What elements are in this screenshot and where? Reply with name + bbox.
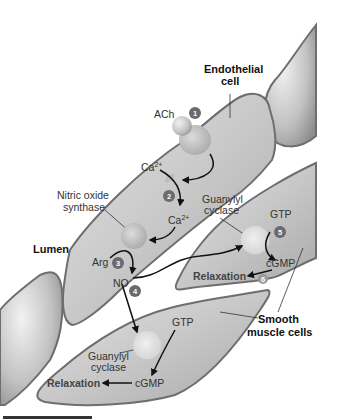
label-gc-upper-line2: cyclase bbox=[204, 204, 239, 216]
svg-text:1: 1 bbox=[193, 109, 197, 118]
nitric-oxide-pathway-diagram: Endothelial cell ACh Ca2+ Ca2+ Nitric ox… bbox=[0, 0, 337, 419]
step-badge-5: 5 bbox=[274, 226, 286, 238]
svg-text:2: 2 bbox=[167, 192, 171, 201]
label-relaxation-lower: Relaxation bbox=[47, 377, 100, 389]
svg-text:6: 6 bbox=[261, 275, 265, 284]
label-gc-lower-line2: cyclase bbox=[91, 361, 126, 373]
diagram-canvas: Endothelial cell ACh Ca2+ Ca2+ Nitric ox… bbox=[0, 0, 337, 419]
step-badge-3: 3 bbox=[112, 257, 124, 269]
nos-enzyme-icon bbox=[121, 223, 147, 249]
step-badge-1: 1 bbox=[189, 107, 201, 119]
svg-text:5: 5 bbox=[278, 228, 282, 237]
step-badge-6: 6 bbox=[258, 274, 268, 284]
label-smooth-line1: Smooth bbox=[258, 313, 299, 325]
label-arg: Arg bbox=[92, 256, 109, 268]
label-cgmp-upper: cGMP bbox=[266, 257, 295, 269]
label-no: NO bbox=[113, 277, 129, 289]
label-relaxation-upper: Relaxation bbox=[193, 270, 246, 282]
ach-molecule-icon bbox=[172, 116, 192, 136]
label-gtp-lower: GTP bbox=[172, 316, 194, 328]
step-badge-2: 2 bbox=[163, 190, 175, 202]
label-lumen: Lumen bbox=[33, 243, 69, 255]
label-endothelial-line1: Endothelial bbox=[204, 63, 263, 75]
label-cgmp-lower: cGMP bbox=[135, 377, 164, 389]
label-nos-line2: synthase bbox=[63, 201, 105, 213]
label-nos-line1: Nitric oxide bbox=[57, 189, 109, 201]
gc-upper-enzyme-icon bbox=[241, 226, 269, 254]
step-badge-4: 4 bbox=[129, 285, 141, 297]
gc-lower-enzyme-icon bbox=[133, 331, 161, 359]
label-ach: ACh bbox=[154, 108, 175, 120]
label-smooth-line2: muscle cells bbox=[247, 326, 312, 338]
label-gtp-upper: GTP bbox=[270, 208, 292, 220]
label-endothelial-line2: cell bbox=[221, 75, 239, 87]
svg-text:3: 3 bbox=[116, 259, 120, 268]
